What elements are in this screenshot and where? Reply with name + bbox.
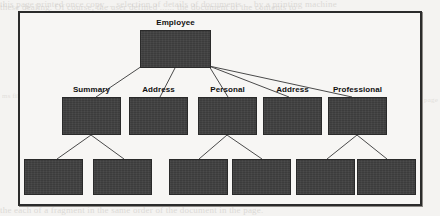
node-label-professional: Professional: [322, 85, 393, 94]
node-label-employee: Employee: [140, 18, 211, 27]
node-leaf-5[interactable]: [296, 159, 355, 195]
node-summary[interactable]: [62, 97, 121, 135]
node-leaf-1[interactable]: [24, 159, 83, 195]
node-personal[interactable]: [198, 97, 257, 135]
node-label-personal: Personal: [198, 85, 257, 94]
node-leaf-3[interactable]: [169, 159, 228, 195]
node-label-address-2: Address: [263, 85, 322, 94]
edge-summary-to-leaf-2: [91, 135, 124, 159]
node-address-1[interactable]: [129, 97, 188, 135]
node-leaf-4[interactable]: [232, 159, 291, 195]
edge-personal-to-leaf-4: [227, 135, 262, 159]
edge-summary-to-leaf-1: [57, 135, 91, 159]
edge-professional-to-leaf-5: [327, 135, 357, 159]
node-label-summary: Summary: [62, 85, 121, 94]
node-leaf-2[interactable]: [93, 159, 152, 195]
node-employee[interactable]: [140, 30, 211, 68]
node-label-address-1: Address: [129, 85, 188, 94]
edge-personal-to-leaf-3: [199, 135, 227, 159]
edge-professional-to-leaf-6: [357, 135, 387, 159]
node-address-2[interactable]: [263, 97, 322, 135]
node-professional[interactable]: [328, 97, 387, 135]
node-leaf-6[interactable]: [357, 159, 416, 195]
figure-canvas: this page printed once copy ... selectio…: [0, 0, 440, 216]
